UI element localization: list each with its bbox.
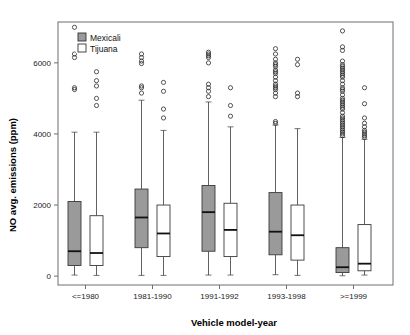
box-iqr — [202, 185, 215, 251]
y-tick-label: 4000 — [33, 130, 51, 139]
box-iqr — [68, 201, 81, 265]
legend-label-tijuana: Tijuana — [90, 44, 118, 54]
x-axis-title: Vehicle model-year — [191, 317, 277, 328]
box-iqr — [157, 205, 170, 257]
legend-label-mexicali: Mexicali — [90, 33, 121, 43]
y-axis-title: NO avg. emissions (ppm) — [7, 118, 18, 232]
x-tick-label: 1991-1992 — [200, 292, 239, 301]
legend-swatch-mexicali — [78, 33, 86, 41]
x-tick-label: 1981-1990 — [133, 292, 172, 301]
x-tick-label: 1993-1998 — [267, 292, 306, 301]
chart-legend: MexicaliTijuana — [76, 30, 124, 54]
x-tick-label: >=1999 — [340, 292, 368, 301]
boxplot-canvas: 0200040006000<=19801981-19901991-1992199… — [0, 0, 410, 335]
box-iqr — [90, 216, 103, 266]
box-iqr — [336, 248, 349, 273]
boxplot-figure: 0200040006000<=19801981-19901991-1992199… — [0, 0, 410, 335]
y-tick-label: 2000 — [33, 201, 51, 210]
y-tick-label: 6000 — [33, 59, 51, 68]
box-iqr — [291, 205, 304, 260]
box-iqr — [269, 193, 282, 255]
x-tick-label: <=1980 — [72, 292, 100, 301]
y-tick-label: 0 — [47, 272, 52, 281]
legend-swatch-tijuana — [78, 44, 86, 52]
